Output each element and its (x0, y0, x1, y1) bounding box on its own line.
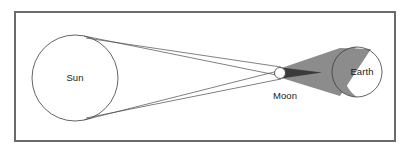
solar-eclipse-diagram: Sun Moon Earth (0, 0, 410, 154)
earth-label: Earth (350, 66, 373, 77)
moon-circle (275, 68, 286, 79)
diagram-canvas: Sun Moon Earth (0, 0, 410, 154)
moon-label: Moon (273, 90, 297, 101)
sun-label: Sun (66, 72, 83, 83)
